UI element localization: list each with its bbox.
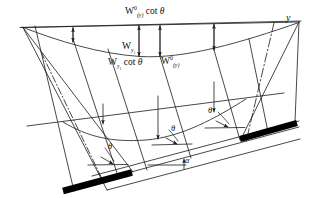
label-theta-left: θ: [108, 141, 112, 151]
coal-seam-left: [63, 173, 132, 192]
boundary-lines: [23, 22, 299, 191]
mid-trough-curve: [63, 99, 246, 141]
diagram-canvas: [0, 0, 309, 198]
displacement-arrows-top: [73, 24, 214, 57]
label-theta-middle: θ: [171, 123, 175, 133]
label-alpha: α: [185, 155, 189, 165]
label-theta-right: θ: [208, 105, 212, 115]
label-w-y1: Wy1: [122, 41, 135, 55]
label-top-width: W0(y) cot θ: [125, 5, 164, 18]
surface-trough-curve: [22, 23, 299, 57]
label-y-axis: y: [286, 12, 290, 23]
dashdot-reference-line: [246, 23, 274, 142]
displacement-arrows-mid: [103, 82, 214, 139]
subsidence-diagram: W0(y) cot θ Wy1 Wy1 cot θ W0(y) y θ θ θ …: [0, 0, 309, 198]
label-w0-y: W0(y): [161, 55, 179, 68]
angle-alpha: [148, 159, 186, 169]
label-w-y1-cot-theta: Wy1 cot θ: [108, 57, 142, 71]
